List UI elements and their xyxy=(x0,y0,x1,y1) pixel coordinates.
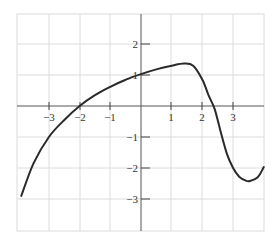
y-ticks xyxy=(141,44,150,199)
x-tick-label: −1 xyxy=(104,111,116,123)
y-tick-label: −1 xyxy=(126,131,138,143)
x-tick-label: 2 xyxy=(199,111,205,123)
x-tick-label: 1 xyxy=(168,111,174,123)
x-tick-label: −2 xyxy=(74,111,86,123)
y-tick-label: 2 xyxy=(133,38,139,50)
function-curve xyxy=(21,63,263,195)
y-tick-label: −2 xyxy=(126,162,138,174)
x-tick-label: 3 xyxy=(230,111,236,123)
y-tick-label: −3 xyxy=(126,193,138,205)
x-tick-label: −3 xyxy=(43,111,55,123)
function-plot: −3 −2 −1 1 2 3 2 1 −1 −2 −3 xyxy=(0,0,276,240)
y-tick-labels: 2 1 −1 −2 −3 xyxy=(126,38,138,205)
